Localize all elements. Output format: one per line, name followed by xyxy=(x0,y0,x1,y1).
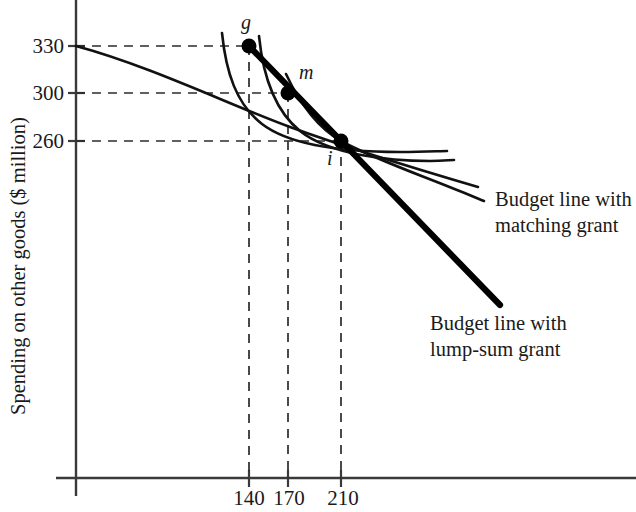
matching-grant-line1: Budget line with xyxy=(495,188,632,211)
budget-line-matching-grant xyxy=(76,46,478,187)
guide-lines-group xyxy=(76,46,341,478)
y-tick-label-260: 260 xyxy=(33,129,65,153)
y-tick-label-330: 330 xyxy=(33,34,65,58)
lumpsum-grant-line2: lump-sum grant xyxy=(430,338,561,361)
budget-line-matching-group xyxy=(76,46,478,187)
point-label-i: i xyxy=(327,147,333,169)
budget-line-lumpsum-group xyxy=(249,46,500,305)
point-label-m: m xyxy=(299,61,313,83)
point-g-dot xyxy=(242,39,257,54)
point-m-dot xyxy=(281,86,296,101)
chart-canvas: g m i 330 300 260 140 170 210 Spending o… xyxy=(0,0,636,512)
matching-grant-line2: matching grant xyxy=(495,214,619,237)
y-axis-title: Spending on other goods ($ million) xyxy=(7,117,30,415)
point-label-g: g xyxy=(241,11,251,34)
annotation-lumpsum-grant: Budget line with lump-sum grant xyxy=(430,312,567,361)
x-tick-label-210: 210 xyxy=(327,486,359,510)
indifference-curve-figure: g m i 330 300 260 140 170 210 Spending o… xyxy=(0,0,636,512)
x-tick-labels-group: 140 170 210 xyxy=(233,486,359,510)
annotation-matching-grant: Budget line with matching grant xyxy=(495,188,632,237)
y-axis-title-group: Spending on other goods ($ million) xyxy=(7,117,30,415)
lumpsum-grant-line1: Budget line with xyxy=(430,312,567,335)
y-tick-label-300: 300 xyxy=(33,81,65,105)
axes-group xyxy=(56,0,636,496)
x-tick-label-170: 170 xyxy=(273,486,305,510)
point-i-dot xyxy=(334,134,349,149)
y-tick-labels-group: 330 300 260 xyxy=(33,34,65,153)
budget-line-lump-sum-grant xyxy=(249,46,500,305)
x-tick-label-140: 140 xyxy=(233,486,265,510)
